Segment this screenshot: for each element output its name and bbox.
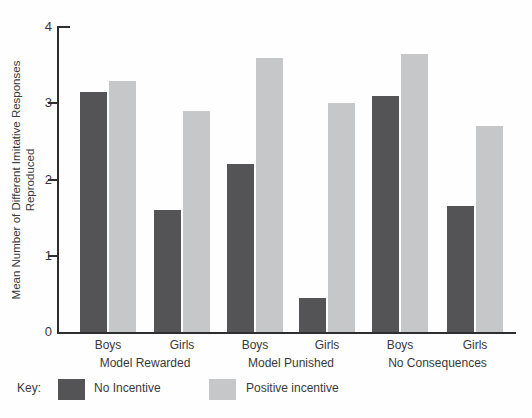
- bar-positive-incentive-boys-2: [256, 58, 283, 332]
- y-axis-label-line-1: Mean Number of Different Imitative Respo…: [9, 10, 23, 350]
- y-tick-label-0: 0: [30, 324, 52, 339]
- condition-label-1: Model Punished: [216, 356, 366, 370]
- legend-swatch-no-incentive: [58, 379, 85, 400]
- y-tick-mark-2: [48, 179, 57, 181]
- y-tick-mark-3: [48, 102, 57, 104]
- bar-positive-incentive-boys-4: [401, 54, 428, 332]
- x-label-girls-3: Girls: [297, 338, 357, 352]
- x-label-girls-1: Girls: [152, 338, 212, 352]
- bar-positive-incentive-boys-0: [109, 81, 136, 332]
- bar-no-incentive-girls-5: [447, 206, 474, 332]
- plot-area: [57, 26, 516, 334]
- legend-label-no-incentive: No Incentive: [94, 381, 161, 395]
- condition-label-2: No Consequences: [363, 356, 513, 370]
- legend-label-positive-incentive: Positive incentive: [246, 381, 339, 395]
- legend: Key: No Incentive Positive incentive: [0, 378, 532, 402]
- legend-key-label: Key:: [17, 381, 41, 395]
- bar-no-incentive-boys-0: [80, 92, 107, 332]
- bar-no-incentive-girls-3: [299, 298, 326, 332]
- condition-label-0: Model Rewarded: [70, 356, 220, 370]
- bar-no-incentive-girls-1: [154, 210, 181, 332]
- bar-positive-incentive-girls-3: [328, 103, 355, 332]
- y-tick-mark-1: [48, 255, 57, 257]
- x-label-boys-2: Boys: [225, 338, 285, 352]
- x-label-boys-4: Boys: [370, 338, 430, 352]
- x-label-boys-0: Boys: [78, 338, 138, 352]
- y-tick-label-4: 4: [30, 19, 52, 34]
- imitative-responses-bar-chart: Mean Number of Different Imitative Respo…: [0, 0, 532, 418]
- legend-swatch-positive-incentive: [209, 379, 236, 400]
- bar-positive-incentive-girls-1: [183, 111, 210, 332]
- x-label-girls-5: Girls: [445, 338, 505, 352]
- bar-no-incentive-boys-4: [372, 96, 399, 332]
- bar-no-incentive-boys-2: [227, 164, 254, 332]
- bar-positive-incentive-girls-5: [476, 126, 503, 332]
